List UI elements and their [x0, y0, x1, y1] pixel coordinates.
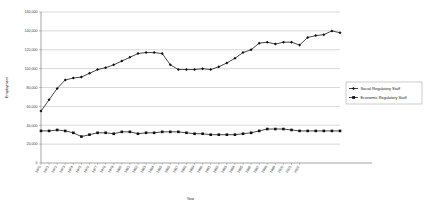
x-axis-tick-label: 1997 — [253, 165, 260, 174]
data-point — [290, 41, 293, 44]
y-axis-tick-label: 100,000 — [25, 67, 38, 71]
data-point — [201, 132, 204, 135]
data-point — [193, 132, 196, 135]
x-axis-tick-label: 1970 — [35, 165, 42, 174]
x-axis-tick-label: 1983 — [140, 165, 147, 174]
data-point — [306, 130, 309, 133]
data-point — [201, 67, 204, 70]
data-point — [177, 131, 180, 134]
data-point — [104, 132, 107, 135]
data-point — [40, 130, 43, 133]
data-point — [339, 130, 342, 133]
data-point — [80, 76, 83, 79]
data-point — [120, 60, 123, 63]
x-axis-tick-label: 1982 — [131, 165, 138, 174]
x-axis-tick-label: 1974 — [67, 165, 74, 174]
data-point — [274, 43, 277, 46]
data-point — [121, 131, 124, 134]
data-point — [185, 132, 188, 135]
data-point — [128, 56, 131, 59]
data-point — [322, 33, 325, 36]
x-axis-tick-label: 1998 — [261, 165, 268, 174]
x-axis-tick-label: 1999 — [269, 165, 276, 174]
data-point — [250, 132, 253, 135]
x-axis-tick-label: 1975 — [75, 165, 82, 174]
x-axis-tick-label: 1978 — [99, 165, 106, 174]
x-axis-tick-label: 2000 — [277, 165, 284, 174]
x-axis-tick-label: 1996 — [245, 165, 252, 174]
x-axis-tick-label: 1986 — [164, 165, 171, 174]
x-axis-tick-label: 1984 — [148, 165, 155, 174]
data-point — [234, 133, 237, 136]
data-point — [258, 130, 261, 133]
x-axis-tick-label: 1979 — [107, 165, 114, 174]
x-axis-tick-label: 1977 — [91, 165, 98, 174]
data-point — [72, 77, 75, 80]
x-axis-tick-label: 1989 — [188, 165, 195, 174]
y-axis-tick-label: 20,000 — [27, 142, 38, 146]
x-axis-tick-label: 1971 — [43, 165, 50, 174]
data-point — [153, 132, 156, 135]
legend-marker-square-icon — [352, 96, 355, 99]
data-point — [145, 51, 148, 54]
y-axis-tick-label: 140,000 — [25, 29, 38, 33]
x-axis-title: Year — [187, 197, 195, 201]
data-point — [88, 72, 91, 75]
y-axis-tick-label: 40,000 — [27, 124, 38, 128]
data-point — [72, 132, 75, 135]
data-point — [298, 130, 301, 133]
x-axis-tick-label: 1985 — [156, 165, 163, 174]
x-axis-tick-label: 1995 — [237, 165, 244, 174]
series-line-economic — [41, 129, 340, 137]
y-axis-tick-label: 120,000 — [25, 48, 38, 52]
data-point — [80, 135, 83, 138]
data-point — [323, 130, 326, 133]
x-axis-tick-label: 1981 — [123, 165, 130, 174]
data-point — [137, 132, 140, 135]
employment-line-chart: 020,00040,00060,00080,000100,000120,0001… — [0, 0, 426, 208]
data-point — [209, 133, 212, 136]
data-point — [314, 34, 317, 37]
data-point — [88, 133, 91, 136]
y-axis-title: Employment — [5, 76, 9, 98]
data-point — [274, 128, 277, 131]
x-axis-tick-label: 1973 — [59, 165, 66, 174]
data-point — [161, 131, 164, 134]
x-axis-tick-label: 1972 — [51, 165, 58, 174]
x-axis-tick-label: 2002 — [293, 165, 300, 174]
x-axis-tick-label: 1980 — [115, 165, 122, 174]
x-axis-tick-label: 1991 — [204, 165, 211, 174]
x-axis-tick-label: 1990 — [196, 165, 203, 174]
data-point — [266, 41, 269, 44]
data-point — [242, 132, 245, 135]
data-point — [290, 129, 293, 132]
data-point — [153, 51, 156, 54]
y-axis-tick-label: 60,000 — [27, 105, 38, 109]
legend-label: Economic Regulatory Staff — [361, 95, 408, 100]
data-point — [169, 131, 172, 134]
x-axis-tick-label: 2001 — [285, 165, 292, 174]
data-point — [226, 133, 229, 136]
x-axis-tick-label: 1976 — [83, 165, 90, 174]
data-point — [282, 128, 285, 131]
data-point — [314, 130, 317, 133]
data-point — [129, 131, 132, 134]
data-point — [96, 132, 99, 135]
data-point — [339, 31, 342, 34]
data-point — [217, 65, 220, 68]
x-axis-tick-label: 1987 — [172, 165, 179, 174]
y-axis-tick-label: 0 — [36, 161, 38, 165]
y-axis-tick-label: 80,000 — [27, 86, 38, 90]
series-line-social — [41, 31, 340, 111]
chart-container: 020,00040,00060,00080,000100,000120,0001… — [0, 0, 426, 208]
data-point — [266, 128, 269, 131]
legend-label: Social Regulatory Staff — [361, 86, 401, 91]
data-point — [145, 132, 148, 135]
data-point — [112, 63, 115, 66]
data-point — [136, 52, 139, 55]
x-axis-tick-label: 1988 — [180, 165, 187, 174]
data-point — [112, 132, 115, 135]
data-point — [331, 130, 334, 133]
data-point — [282, 41, 285, 44]
y-axis-tick-label: 160,000 — [25, 10, 38, 14]
